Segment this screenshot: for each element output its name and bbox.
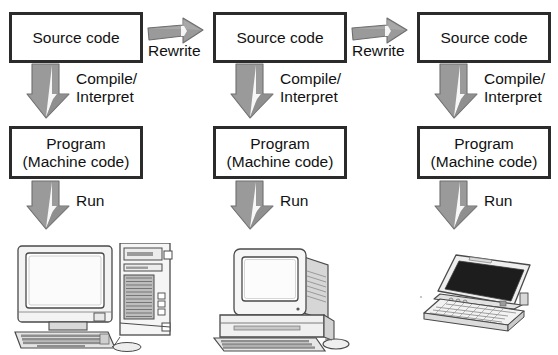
down-arrow-icon [26, 63, 70, 119]
source-code-box-1: Source code [9, 12, 143, 63]
all-in-one-desktop-computer-icon [212, 243, 357, 353]
down-arrow-icon [26, 180, 70, 230]
down-arrow-icon [230, 180, 274, 230]
down-arrow-icon [230, 63, 274, 119]
down-arrow-icon [434, 63, 478, 119]
compile-arrow-2 [230, 63, 274, 119]
program-box-2: Program (Machine code) [213, 126, 347, 179]
run-arrow-3 [434, 180, 478, 230]
source-code-box-2-label: Source code [236, 29, 323, 47]
source-code-box-3-label: Source code [440, 29, 527, 47]
run-arrow-1 [26, 180, 70, 230]
down-arrow-icon [434, 180, 478, 230]
rewrite-label-2: Rewrite [352, 42, 405, 60]
compile-arrow-1 [26, 63, 70, 119]
compile-label-1: Compile/ Interpret [76, 70, 137, 106]
compile-label-2: Compile/ Interpret [280, 70, 341, 106]
desktop-tower-computer-1 [12, 243, 177, 353]
run-label-3: Run [484, 192, 512, 210]
program-box-3: Program (Machine code) [417, 126, 551, 179]
compile-label-3: Compile/ Interpret [484, 70, 545, 106]
source-code-box-1-label: Source code [32, 29, 119, 47]
laptop-computer-icon [418, 253, 548, 353]
clipped-title-remnant [150, 0, 410, 2]
compile-arrow-3 [434, 63, 478, 119]
rewrite-label-1: Rewrite [148, 42, 201, 60]
run-label-2: Run [280, 192, 308, 210]
run-label-1: Run [76, 192, 104, 210]
source-code-box-2: Source code [213, 12, 347, 63]
run-arrow-2 [230, 180, 274, 230]
laptop-computer-3 [418, 253, 548, 353]
program-box-1: Program (Machine code) [9, 126, 143, 179]
diagram-canvas: Source code Compile/ Interpret Program (… [0, 0, 558, 355]
all-in-one-desktop-computer-2 [212, 243, 357, 353]
source-code-box-3: Source code [417, 12, 551, 63]
desktop-tower-computer-icon [12, 243, 177, 353]
